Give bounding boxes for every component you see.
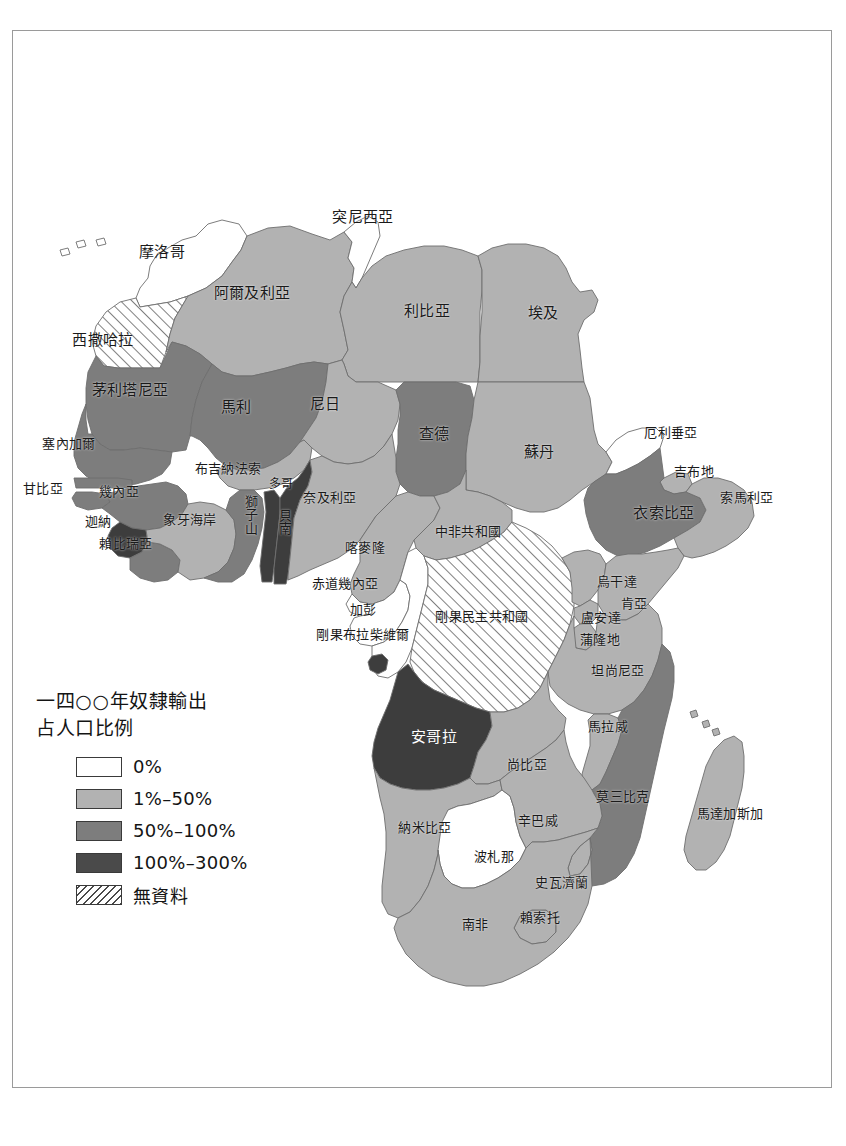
country-label-niger: 尼日 [310, 396, 341, 412]
legend-swatch-high [76, 853, 122, 873]
country-label-kenya: 肯亞 [621, 597, 648, 611]
country-label-libya: 利比亞 [404, 303, 450, 319]
legend-title: 一四○○年奴隸輸出占人口比例 [36, 688, 276, 742]
legend-rows: 0% 1%–50% 50%–100% 100%–300% 無資料 [76, 752, 276, 910]
country-shape-island-canary-b[interactable] [76, 240, 86, 248]
country-shape-madagascar[interactable] [684, 736, 744, 870]
legend-swatch-low [76, 789, 122, 809]
country-label-malawi: 馬拉威 [588, 720, 628, 734]
map-legend: 一四○○年奴隸輸出占人口比例 0% 1%–50% 50%–100% 100%–3… [36, 688, 276, 912]
country-label-namibia: 納米比亞 [398, 821, 451, 835]
country-label-western-sahara: 西撒哈拉 [72, 332, 133, 348]
country-label-angola: 安哥拉 [411, 729, 457, 745]
country-label-benin: 貝南 [277, 509, 291, 536]
legend-label-high: 100%–300% [133, 852, 248, 873]
legend-row-nodata[interactable]: 無資料 [76, 880, 276, 910]
country-label-somalia: 索馬利亞 [720, 491, 773, 505]
country-label-cameroon: 喀麥隆 [345, 541, 385, 555]
country-shape-island-comoros[interactable] [690, 710, 698, 718]
country-label-rwanda: 盧安達 [581, 611, 621, 625]
country-label-mauritania: 茅利塔尼亞 [92, 382, 169, 398]
country-label-sierra-leone: 獅子山 [243, 495, 257, 535]
country-label-djibouti: 吉布地 [674, 465, 714, 479]
country-label-senegal: 塞內加爾 [42, 437, 95, 451]
legend-label-zero: 0% [133, 756, 162, 777]
legend-swatch-mid [76, 821, 122, 841]
africa-choropleth-svg [0, 0, 846, 1146]
country-label-liberia: 賴比瑞亞 [99, 537, 152, 551]
country-label-uganda: 烏干達 [597, 575, 637, 589]
figure-root: 摩洛哥 突尼西亞 阿爾及利亞 利比亞 埃及 西撒哈拉 茅利塔尼亞 馬利 尼日 查… [0, 0, 846, 1146]
country-shape-cabinda[interactable] [368, 654, 388, 674]
country-label-congo-brazzaville: 剛果布拉柴維爾 [316, 628, 409, 642]
legend-row-high[interactable]: 100%–300% [76, 848, 276, 878]
country-label-eswatini: 史瓦濟蘭 [535, 876, 588, 890]
legend-title-line2: 占人口比例 [36, 717, 134, 739]
legend-title-line1: 一四○○年奴隸輸出 [36, 690, 208, 712]
country-shape-island-canary[interactable] [60, 248, 70, 256]
country-label-sudan: 蘇丹 [524, 444, 555, 460]
country-label-zambia: 尚比亞 [507, 758, 547, 772]
country-label-botswana: 波札那 [474, 850, 514, 864]
country-label-togo: 多哥 [269, 478, 294, 491]
legend-label-mid: 50%–100% [133, 820, 236, 841]
country-label-tunisia: 突尼西亞 [332, 209, 393, 225]
country-shape-island-minor-a[interactable] [702, 720, 710, 728]
country-label-guinea: 幾內亞 [99, 485, 139, 499]
country-label-eritrea: 厄利垂亞 [644, 426, 697, 440]
country-label-equatorial-guinea: 赤道幾內亞 [312, 577, 379, 591]
legend-swatch-zero [76, 757, 122, 777]
country-label-mozambique: 莫三比克 [596, 790, 649, 804]
country-label-mali: 馬利 [221, 399, 252, 415]
country-label-gabon: 加彭 [350, 603, 377, 617]
country-label-lesotho: 賴索托 [520, 911, 560, 925]
legend-label-nodata: 無資料 [133, 882, 188, 908]
legend-label-low: 1%–50% [133, 788, 212, 809]
country-label-cote-divoire: 象牙海岸 [163, 513, 216, 527]
map-stage: 摩洛哥 突尼西亞 阿爾及利亞 利比亞 埃及 西撒哈拉 茅利塔尼亞 馬利 尼日 查… [0, 0, 846, 1146]
country-label-burundi: 蒲隆地 [580, 633, 620, 647]
country-shape-island-minor-b[interactable] [712, 728, 720, 736]
country-label-gambia: 甘比亞 [23, 482, 63, 496]
legend-swatch-nodata [76, 885, 122, 905]
legend-row-zero[interactable]: 0% [76, 752, 276, 782]
country-label-nigeria: 奈及利亞 [303, 491, 356, 505]
country-label-south-africa: 南非 [462, 918, 489, 932]
country-label-madagascar: 馬達加斯加 [697, 807, 764, 821]
country-label-zimbabwe: 辛巴威 [518, 814, 558, 828]
legend-row-mid[interactable]: 50%–100% [76, 816, 276, 846]
country-label-morocco: 摩洛哥 [139, 244, 185, 260]
country-label-ghana: 迦納 [85, 515, 112, 529]
country-label-car: 中非共和國 [435, 525, 502, 539]
country-label-dr-congo: 剛果民主共和國 [434, 610, 530, 624]
country-label-egypt: 埃及 [528, 305, 559, 321]
country-label-burkina-faso: 布吉納法索 [195, 462, 262, 476]
legend-row-low[interactable]: 1%–50% [76, 784, 276, 814]
country-shape-island-cape-verde[interactable] [96, 238, 106, 246]
country-label-chad: 查德 [419, 426, 450, 442]
country-label-tanzania: 坦尚尼亞 [591, 664, 644, 678]
country-label-algeria: 阿爾及利亞 [214, 285, 291, 301]
country-label-ethiopia: 衣索比亞 [633, 505, 694, 521]
